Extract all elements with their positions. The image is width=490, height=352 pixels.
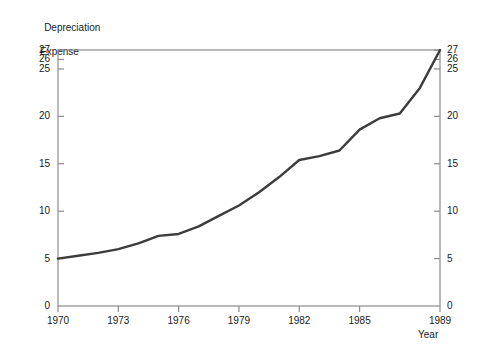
- x-tick-label-1970: 1970: [38, 316, 78, 326]
- y-tick-label-right-26: 26: [447, 54, 469, 64]
- y-tick-label-right-0: 0: [447, 301, 469, 311]
- x-axis-ticks: [58, 306, 440, 312]
- y-tick-label-left-26: 26: [28, 54, 50, 64]
- x-tick-label-1982: 1982: [279, 316, 319, 326]
- y-tick-label-right-5: 5: [447, 254, 469, 264]
- y-tick-label-left-10: 10: [28, 206, 50, 216]
- x-tick-label-1979: 1979: [219, 316, 259, 326]
- y-tick-label-left-27: 27: [28, 45, 50, 55]
- y-axis-ticks-left: [58, 50, 64, 259]
- y-tick-label-left-25: 25: [28, 64, 50, 74]
- x-tick-label-1989: 1989: [420, 316, 460, 326]
- y-axis-ticks-right: [434, 50, 440, 259]
- axis-frame: [58, 50, 440, 306]
- x-tick-label-1985: 1985: [340, 316, 380, 326]
- y-tick-label-right-27: 27: [447, 45, 469, 55]
- data-series-line: [58, 50, 440, 259]
- y-tick-label-left-20: 20: [28, 111, 50, 121]
- plot-area: [0, 0, 490, 352]
- x-tick-label-1973: 1973: [98, 316, 138, 326]
- y-tick-label-right-15: 15: [447, 159, 469, 169]
- y-tick-label-right-10: 10: [447, 206, 469, 216]
- y-tick-label-right-20: 20: [447, 111, 469, 121]
- chart-container: Depreciation Expense Year 05101520252627…: [0, 0, 490, 352]
- y-tick-label-right-25: 25: [447, 64, 469, 74]
- x-tick-label-1976: 1976: [159, 316, 199, 326]
- y-tick-label-left-0: 0: [28, 301, 50, 311]
- y-tick-label-left-15: 15: [28, 159, 50, 169]
- y-tick-label-left-5: 5: [28, 254, 50, 264]
